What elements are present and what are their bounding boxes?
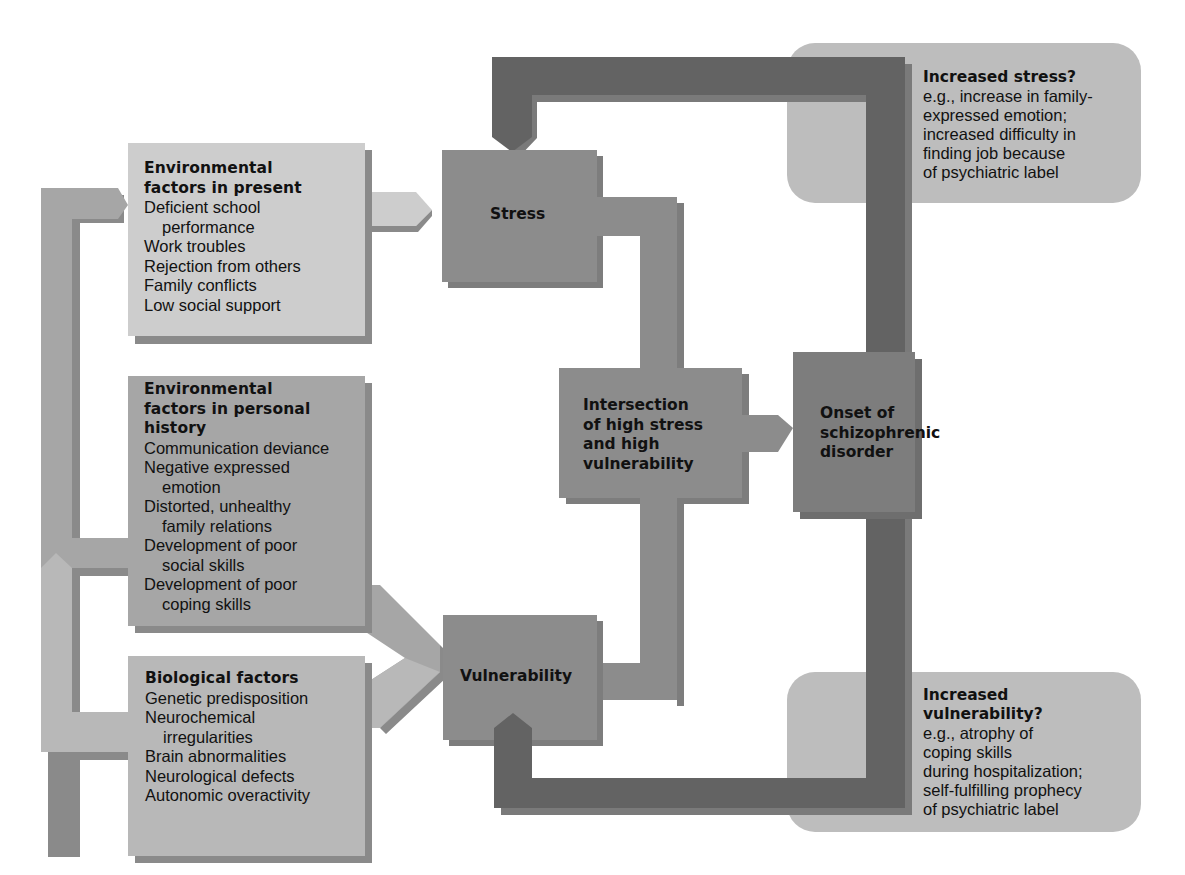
history-item: Negative expressed: [144, 458, 329, 478]
biological-item: Genetic predisposition: [145, 689, 310, 709]
present-item: Family conflicts: [144, 276, 302, 296]
biological-item: irregularities: [145, 728, 310, 748]
increased-stress-note: Increased stress? e.g., increase in fami…: [923, 68, 1093, 182]
present-item: Deficient school: [144, 198, 302, 218]
present-item: Work troubles: [144, 237, 302, 257]
present-title-1: Environmental: [144, 159, 302, 179]
onset-label: Onset of schizophrenic disorder: [820, 404, 940, 463]
biological-item: Neurological defects: [145, 767, 310, 787]
vulnerability-label: Vulnerability: [460, 667, 572, 687]
history-item: social skills: [144, 556, 329, 576]
stress-label: Stress: [490, 205, 545, 225]
increased-vulnerability-note: Increased vulnerability? e.g., atrophy o…: [923, 686, 1083, 819]
history-title-3: history: [144, 419, 329, 439]
increased-stress-title: Increased stress?: [923, 68, 1093, 87]
biological-item: Brain abnormalities: [145, 747, 310, 767]
intersection-label: Intersection of high stress and high vul…: [583, 396, 703, 474]
increased-vulnerability-title-1: Increased: [923, 686, 1083, 705]
history-item: emotion: [144, 478, 329, 498]
biological-title: Biological factors: [145, 669, 310, 689]
present-factors-text: Environmental factors in present Deficie…: [144, 159, 302, 315]
history-item: Communication deviance: [144, 439, 329, 459]
present-item: Low social support: [144, 296, 302, 316]
history-item: family relations: [144, 517, 329, 537]
intersection-to-onset-arrow: [742, 415, 793, 452]
history-item: coping skills: [144, 595, 329, 615]
history-item: Development of poor: [144, 575, 329, 595]
history-item: Distorted, unhealthy: [144, 497, 329, 517]
biological-item: Autonomic overactivity: [145, 786, 310, 806]
stress-to-intersection-connector: [640, 236, 677, 368]
present-item: Rejection from others: [144, 257, 302, 277]
history-factors-text: Environmental factors in personal histor…: [144, 380, 329, 614]
increased-vulnerability-title-2: vulnerability?: [923, 705, 1083, 724]
history-title-1: Environmental: [144, 380, 329, 400]
bio-link-bar: [41, 712, 131, 752]
history-item: Development of poor: [144, 536, 329, 556]
present-title-2: factors in present: [144, 179, 302, 199]
history-title-2: factors in personal: [144, 400, 329, 420]
present-item: performance: [144, 218, 302, 238]
biological-item: Neurochemical: [145, 708, 310, 728]
biological-factors-text: Biological factors Genetic predispositio…: [145, 669, 310, 806]
